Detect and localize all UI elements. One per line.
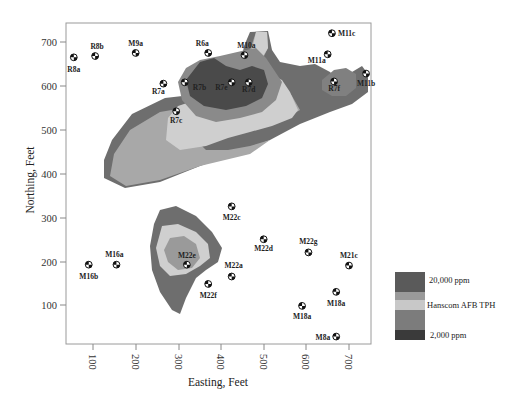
well-label: R7f xyxy=(328,84,340,93)
legend-band xyxy=(395,330,425,340)
x-tick: 300 xyxy=(173,344,184,370)
x-tick: 700 xyxy=(343,344,354,370)
well-label: M21c xyxy=(340,251,359,260)
y-tick: 200 xyxy=(41,257,66,268)
well-label: M16a xyxy=(105,250,124,259)
x-tick: 400 xyxy=(215,344,226,370)
legend-bottom-label: 2,000 ppm xyxy=(430,330,467,340)
well-label: M11b xyxy=(357,79,375,88)
well-marker: M8a xyxy=(316,333,340,342)
x-axis: 100 200 300 400 500 600 700 Easting, Fee… xyxy=(87,344,354,389)
y-tick: 100 xyxy=(41,300,66,311)
y-tick: 300 xyxy=(41,213,66,224)
well-label: M18a xyxy=(293,312,312,321)
svg-text:100: 100 xyxy=(41,300,57,311)
svg-text:500: 500 xyxy=(41,125,57,136)
well-label: R7a xyxy=(152,87,165,96)
svg-text:200: 200 xyxy=(41,257,57,268)
legend-band xyxy=(395,272,425,292)
legend-top-label: 20,000 ppm xyxy=(429,275,470,285)
well-label: R7c xyxy=(170,116,183,125)
legend-title: Hanscom AFB TPH xyxy=(427,300,495,310)
svg-text:700: 700 xyxy=(343,354,354,370)
well-label: M22d xyxy=(254,244,274,253)
x-tick: 100 xyxy=(87,344,98,370)
y-tick: 400 xyxy=(41,169,66,180)
svg-text:300: 300 xyxy=(173,354,184,370)
well-label: M22c xyxy=(223,213,242,222)
well-label: M22g xyxy=(299,237,318,246)
well-label: M22f xyxy=(200,291,218,300)
x-tick: 200 xyxy=(130,344,141,370)
legend-band xyxy=(395,292,425,300)
well-label: M22a xyxy=(224,261,243,270)
svg-text:400: 400 xyxy=(41,169,57,180)
y-axis-title: Northing, Feet xyxy=(24,146,37,214)
well-label: M22e xyxy=(178,251,197,260)
svg-text:200: 200 xyxy=(130,354,141,370)
svg-text:400: 400 xyxy=(215,354,226,370)
well-label: M11c xyxy=(338,29,356,38)
legend-band xyxy=(395,310,425,330)
y-tick: 500 xyxy=(41,125,66,136)
legend-band xyxy=(395,300,425,310)
well-label: M9a xyxy=(128,39,143,48)
well-label: R8a xyxy=(67,65,80,74)
x-tick: 500 xyxy=(258,344,269,370)
well-marker: M11c xyxy=(329,29,357,38)
well-label: R8b xyxy=(90,42,103,51)
y-tick: 700 xyxy=(41,37,66,48)
y-axis: 700 600 500 400 300 200 100 Northing, Fe… xyxy=(24,37,66,311)
well-label: M8a xyxy=(316,333,331,342)
svg-text:700: 700 xyxy=(41,37,57,48)
svg-text:100: 100 xyxy=(87,354,98,370)
well-label: R7d xyxy=(242,85,256,94)
tph-contour-chart: 700 600 500 400 300 200 100 Northing, Fe… xyxy=(0,0,522,402)
x-tick: 600 xyxy=(300,344,311,370)
svg-text:600: 600 xyxy=(300,354,311,370)
svg-text:300: 300 xyxy=(41,213,57,224)
well-label: M10a xyxy=(237,41,256,50)
well-label: M18a xyxy=(327,299,346,308)
well-label: M16b xyxy=(79,272,98,281)
well-label: R7b xyxy=(193,83,206,92)
svg-text:600: 600 xyxy=(41,81,57,92)
legend: 20,000 ppm Hanscom AFB TPH 2,000 ppm xyxy=(395,272,495,340)
y-tick: 600 xyxy=(41,81,66,92)
svg-text:500: 500 xyxy=(258,354,269,370)
well-label: M11a xyxy=(308,56,326,65)
well-label: R6a xyxy=(196,39,209,48)
well-label: R7e xyxy=(215,83,228,92)
x-axis-title: Easting, Feet xyxy=(188,376,249,389)
